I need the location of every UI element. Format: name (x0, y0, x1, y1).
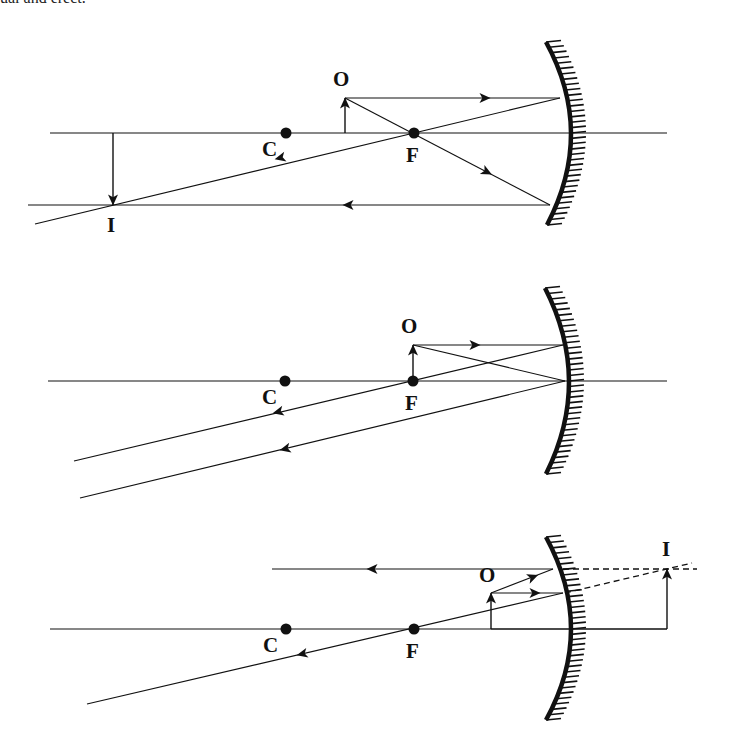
mirror-hatch (557, 314, 572, 316)
concave-mirror (545, 287, 584, 475)
mirror-hatch (562, 330, 577, 332)
mirror-hatch (562, 574, 577, 576)
mirror-hatch (570, 115, 585, 117)
mirror-hatch (561, 325, 576, 327)
mirror-hatch (568, 363, 583, 365)
ray-diagram-object-at-focus: OCF (48, 287, 667, 499)
object-label: O (401, 314, 417, 338)
mirror-hatch (571, 126, 586, 128)
point-c-dot (281, 624, 292, 635)
mirror-hatch (568, 358, 583, 360)
mirror-hatch (570, 606, 585, 608)
mirror-hatch (565, 584, 580, 586)
mirror-hatch (546, 536, 561, 538)
mirror-hatch (553, 303, 568, 305)
ray-diagram-object-inside-focus: OICF (50, 536, 697, 721)
mirror-hatch (567, 94, 582, 96)
mirror-hatch (554, 56, 569, 58)
mirror-hatch (569, 601, 584, 603)
mirror-hatch (570, 110, 585, 112)
point-c-dot (281, 128, 292, 139)
point-f-label: F (406, 639, 419, 663)
object-label: O (333, 67, 349, 91)
image-label: I (662, 537, 670, 561)
mirror-hatch (565, 341, 580, 343)
virtual-ray-extension (565, 563, 692, 593)
point-f-dot (409, 128, 420, 139)
mirror-hatch (546, 41, 561, 43)
point-c-label: C (262, 385, 277, 409)
mirror-hatch (571, 622, 586, 624)
mirror-hatch (562, 78, 577, 80)
mirror-hatch (567, 352, 582, 354)
light-ray (345, 98, 550, 205)
mirror-hatch (571, 617, 586, 619)
mirror-hatch (556, 62, 571, 64)
point-f-dot (408, 376, 419, 387)
mirror-hatch (551, 51, 566, 53)
mirror-hatch (558, 67, 573, 69)
mirror-hatch (568, 595, 583, 597)
mirror-hatch (566, 347, 581, 349)
mirror-hatch (571, 121, 586, 123)
light-ray (80, 381, 565, 498)
mirror-hatch (545, 287, 560, 289)
mirror-hatch (556, 557, 571, 559)
mirror-hatch (565, 89, 580, 91)
mirror-hatch (559, 563, 574, 565)
mirror-hatch (552, 546, 567, 548)
mirror-hatch (569, 374, 584, 376)
mirror-hatch (560, 73, 575, 75)
point-c-label: C (263, 633, 278, 657)
point-f-dot (409, 624, 420, 635)
light-ray (491, 569, 553, 593)
mirror-hatch (564, 83, 579, 85)
point-c-label: C (262, 137, 277, 161)
mirror-hatch (555, 308, 570, 310)
point-f-label: F (405, 391, 418, 415)
concave-mirror-ray-diagrams: OICFOCFOICF (0, 0, 729, 754)
mirror-hatch (569, 369, 584, 371)
image-label: I (107, 213, 115, 237)
mirror-hatch (549, 46, 564, 48)
mirror-hatch (559, 319, 574, 321)
concave-mirror (546, 536, 586, 721)
mirror-hatch (564, 336, 579, 338)
object-label: O (479, 563, 495, 587)
point-f-label: F (406, 143, 419, 167)
ray-diagram-object-beyond-focus: OICF (28, 41, 667, 238)
mirror-hatch (568, 99, 583, 101)
mirror-hatch (554, 552, 569, 554)
mirror-hatch (564, 579, 579, 581)
light-ray (74, 345, 563, 461)
point-c-dot (280, 376, 291, 387)
mirror-hatch (548, 292, 563, 294)
mirror-hatch (570, 611, 585, 613)
mirror-hatch (549, 541, 564, 543)
mirror-hatch (569, 105, 584, 107)
mirror-hatch (550, 297, 565, 299)
